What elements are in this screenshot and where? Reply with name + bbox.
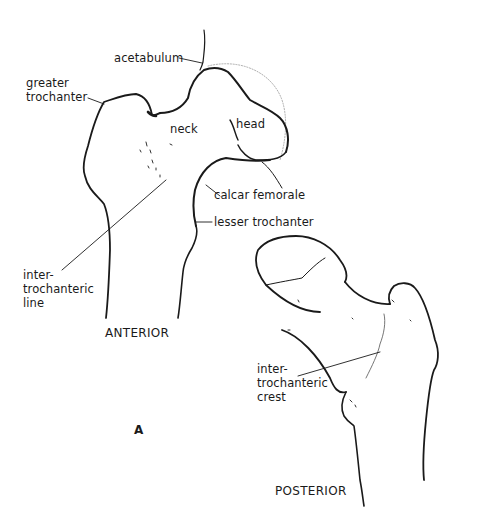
label-calcar-femorale: calcar femorale (214, 188, 305, 202)
view-title-anterior: ANTERIOR (105, 326, 169, 340)
label-intertrochanteric-crest: inter- trochanteric crest (257, 362, 328, 404)
panel-letter: A (134, 423, 143, 437)
view-title-posterior: POSTERIOR (275, 484, 347, 498)
label-acetabulum: acetabulum (114, 51, 183, 65)
label-greater-trochanter: greater trochanter (26, 76, 87, 104)
label-neck: neck (170, 122, 198, 136)
femur-diagram: acetabulum greater trochanter neck head … (0, 0, 478, 523)
label-intertrochanteric-line: inter- trochanteric line (23, 268, 94, 310)
label-head: head (236, 117, 265, 131)
label-lesser-trochanter: lesser trochanter (214, 215, 314, 229)
